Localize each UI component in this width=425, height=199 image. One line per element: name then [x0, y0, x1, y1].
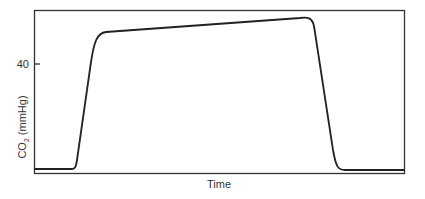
y-label-main: CO — [16, 142, 28, 159]
svg-text:CO2 (mmHg): CO2 (mmHg) — [16, 95, 30, 158]
y-axis-label: CO2 (mmHg) — [16, 95, 30, 158]
capnogram-chart: 40 CO2 (mmHg) Time — [0, 0, 425, 199]
y-tick-label: 40 — [17, 58, 29, 70]
capnogram-line — [35, 18, 404, 170]
plot-frame — [35, 11, 405, 174]
y-label-units: (mmHg) — [16, 95, 28, 138]
x-axis-label: Time — [207, 178, 231, 190]
